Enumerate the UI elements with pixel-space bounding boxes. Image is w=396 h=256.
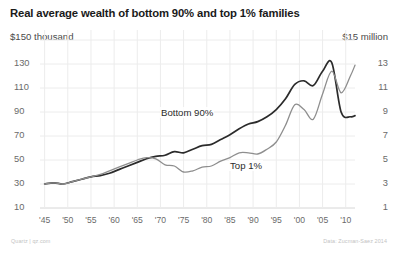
left-tick-label: 10 [14,202,24,212]
right-tick-label: 13 [378,58,388,68]
credit-data: Data: Zucman-Saez 2014 [323,238,387,244]
x-tick-label: '85 [224,215,235,225]
x-tick-label: '90 [247,215,258,225]
x-tick-label: '45 [39,215,50,225]
right-tick-label: 1 [383,202,388,212]
x-tick-label: '75 [178,215,189,225]
gridlines [40,30,355,208]
credit-source: Quartz | qz.com [11,238,50,244]
left-tick-label: 90 [14,106,24,116]
plot-area [0,0,396,256]
right-tick-label: 5 [383,154,388,164]
right-tick-label: 9 [383,106,388,116]
x-tick-label: '00 [294,215,305,225]
x-tick-label: '65 [132,215,143,225]
x-tick-label: '80 [201,215,212,225]
right-tick-label: 3 [383,178,388,188]
x-tick-label: '05 [317,215,328,225]
left-tick-label: 70 [14,130,24,140]
left-tick-label: 110 [14,82,29,92]
right-tick-label: 11 [378,82,388,92]
x-tick-label: '50 [62,215,73,225]
right-tick-label: 7 [383,130,388,140]
series-label-top1: Top 1% [229,160,263,171]
chart-container: Real average wealth of bottom 90% and to… [0,0,396,256]
x-tick-label: '10 [340,215,351,225]
left-tick-label: 30 [14,178,24,188]
x-tick-label: '60 [109,215,120,225]
left-tick-label: 130 [14,58,30,68]
series-label-bottom90: Bottom 90% [160,107,214,118]
x-tick-label: '70 [155,215,166,225]
left-tick-label: 50 [14,154,24,164]
x-tick-label: '55 [85,215,96,225]
x-tick-label: '95 [271,215,282,225]
